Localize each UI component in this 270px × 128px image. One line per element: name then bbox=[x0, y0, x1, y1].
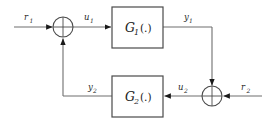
signal-r1-symbol: r bbox=[24, 12, 29, 22]
signal-u1-symbol: u bbox=[84, 12, 89, 22]
block-g1-subscript: 1 bbox=[134, 28, 139, 37]
signal-label-r1: r 1 bbox=[24, 12, 33, 24]
summing-junction-left bbox=[53, 17, 73, 37]
signal-label-y1: y 1 bbox=[183, 12, 193, 24]
block-g1[interactable]: G 1 (.) bbox=[112, 7, 163, 48]
signal-u2-subscript: 2 bbox=[183, 87, 188, 94]
signal-y2-subscript: 2 bbox=[92, 87, 97, 94]
signal-label-u1: u 1 bbox=[84, 12, 94, 24]
block-g2-argument: (.) bbox=[140, 91, 152, 103]
signal-label-u2: u 2 bbox=[178, 82, 188, 94]
block-diagram-svg: G 1 (.) G 2 (.) r 1 u 1 y 1 u 2 bbox=[0, 0, 270, 128]
signal-u2-symbol: u bbox=[178, 82, 183, 92]
signal-r2-subscript: 2 bbox=[246, 87, 251, 94]
summing-junction-right bbox=[202, 86, 222, 106]
block-g2[interactable]: G 2 (.) bbox=[112, 76, 163, 117]
signal-r2-symbol: r bbox=[241, 82, 246, 92]
signal-u1-subscript: 1 bbox=[90, 17, 94, 24]
block-g2-subscript: 2 bbox=[133, 97, 139, 106]
block-g1-argument: (.) bbox=[140, 22, 152, 34]
signal-label-y2: y 2 bbox=[87, 82, 97, 94]
signal-y1-subscript: 1 bbox=[189, 17, 193, 24]
signal-label-r2: r 2 bbox=[241, 82, 251, 94]
block-diagram-canvas: G 1 (.) G 2 (.) r 1 u 1 y 1 u 2 bbox=[0, 0, 270, 128]
signal-r1-subscript: 1 bbox=[30, 17, 34, 24]
